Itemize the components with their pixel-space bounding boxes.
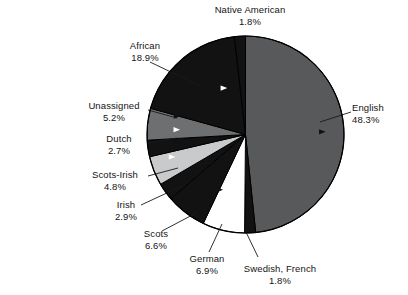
slice-label-unassigned-name: Unassigned (72, 100, 156, 112)
chart-canvas: Native American 1.8% African 18.9% Unass… (0, 0, 408, 295)
slice-label-native-american: Native American 1.8% (195, 4, 305, 27)
slice-label-native-american-pct: 1.8% (195, 16, 305, 28)
slice-label-scots-name: Scots (128, 228, 184, 240)
slice-label-irish: Irish 2.9% (96, 199, 156, 222)
slice-label-scots: Scots 6.6% (128, 228, 184, 251)
pie-slice-english[interactable] (246, 36, 344, 232)
slice-label-irish-name: Irish (96, 199, 156, 211)
slice-label-scots-irish-pct: 4.8% (74, 181, 156, 193)
figure-caption: opulation rom the nsus, he United 20-132… (0, 185, 68, 287)
slice-label-dutch: Dutch 2.7% (82, 133, 156, 156)
slice-label-swedish-french-pct: 1.8% (228, 275, 332, 287)
slice-label-unassigned: Unassigned 5.2% (72, 100, 156, 123)
leader-swedish (245, 230, 258, 257)
pie-slices (147, 36, 344, 233)
slice-label-english-pct: 48.3% (352, 114, 408, 126)
slice-label-scots-irish-name: Scots-Irish (74, 169, 156, 181)
slice-label-english-name: English (352, 102, 408, 114)
slice-label-african-pct: 18.9% (112, 52, 178, 64)
slice-label-irish-pct: 2.9% (96, 211, 156, 223)
slice-label-english: English 48.3% (352, 102, 408, 125)
slice-label-african: African 18.9% (112, 40, 178, 63)
slice-label-native-american-name: Native American (195, 4, 305, 16)
slice-label-swedish-french-name: Swedish, French (228, 263, 332, 275)
slice-label-scots-pct: 6.6% (128, 240, 184, 252)
slice-label-dutch-pct: 2.7% (82, 145, 156, 157)
slice-label-scots-irish: Scots-Irish 4.8% (74, 169, 156, 192)
slice-label-african-name: African (112, 40, 178, 52)
slice-label-swedish-french: Swedish, French 1.8% (228, 263, 332, 286)
slice-label-unassigned-pct: 5.2% (72, 112, 156, 124)
slice-label-dutch-name: Dutch (82, 133, 156, 145)
